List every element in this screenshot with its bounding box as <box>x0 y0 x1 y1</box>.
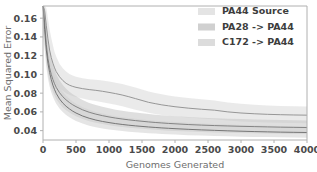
x-tick-label: 3000 <box>228 144 255 155</box>
legend-label-1: PA44 Source <box>222 5 289 16</box>
x-tick-label: 500 <box>66 144 86 155</box>
legend-swatch-1 <box>198 8 215 15</box>
y-tick-label: 0.14 <box>14 31 38 42</box>
x-tick-label: 0 <box>40 144 47 155</box>
y-tick-label: 0.06 <box>14 106 38 117</box>
chart-legend: PA44 SourcePA28 -> PA44C172 -> PA44 <box>198 5 294 47</box>
y-tick-label: 0.04 <box>14 125 38 136</box>
y-tick-label: 0.08 <box>14 88 38 99</box>
x-tick-label: 1000 <box>96 144 123 155</box>
x-axis-label: Genomes Generated <box>126 159 225 170</box>
chart-figure: 05001000150020002500300035004000 0.040.0… <box>0 0 317 172</box>
legend-label-3: C172 -> PA44 <box>222 36 294 47</box>
legend-label-2: PA28 -> PA44 <box>222 21 294 32</box>
y-axis-label: Mean Squared Error <box>2 26 13 121</box>
y-tick-label: 0.10 <box>14 69 38 80</box>
legend-swatch-3 <box>198 39 215 46</box>
x-tick-label: 2000 <box>162 144 189 155</box>
y-tick-label: 0.16 <box>14 13 38 24</box>
mean-squared-error-line-chart: 05001000150020002500300035004000 0.040.0… <box>0 0 317 172</box>
x-tick-label: 4000 <box>294 144 317 155</box>
x-tick-label: 2500 <box>195 144 222 155</box>
x-tick-label: 3500 <box>261 144 288 155</box>
x-tick-label: 1500 <box>129 144 156 155</box>
legend-swatch-2 <box>198 24 215 31</box>
y-tick-label: 0.12 <box>14 50 37 61</box>
